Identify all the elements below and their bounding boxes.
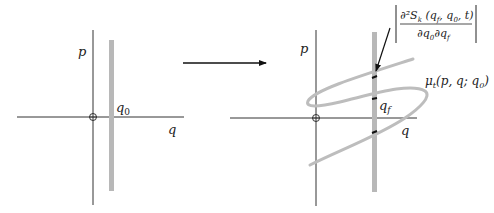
manifold-label: μt(p, q; q0) [425,74,489,90]
intersection-mark [372,98,377,99]
left-p-label: p [78,44,87,59]
left-panel: p q q0 [17,30,184,205]
left-q0-label: q0 [116,100,130,117]
formula-pointer-arrow-icon [376,28,390,71]
phase-space-diagram: p q q0 p q qf μt(p, q; q0) ∂²Sk (qf, q0,… [0,0,494,213]
left-q-label: q [168,122,176,137]
right-p-label: p [300,41,309,56]
jacobian-formula: ∂²Sk (qf, q0, t) ∂q0∂qf [396,5,476,43]
right-q-label: q [401,123,409,138]
right-panel: p q qf μt(p, q; q0) ∂²Sk (qf, q0, t) ∂q0… [230,5,489,206]
formula-denominator: ∂q0∂qf [417,27,451,42]
right-final-band [372,32,377,192]
right-qf-label: qf [379,98,392,115]
evolved-manifold-curve [308,59,427,165]
formula-numerator: ∂²Sk (qf, q0, t) [400,9,474,24]
left-initial-band [109,40,114,191]
